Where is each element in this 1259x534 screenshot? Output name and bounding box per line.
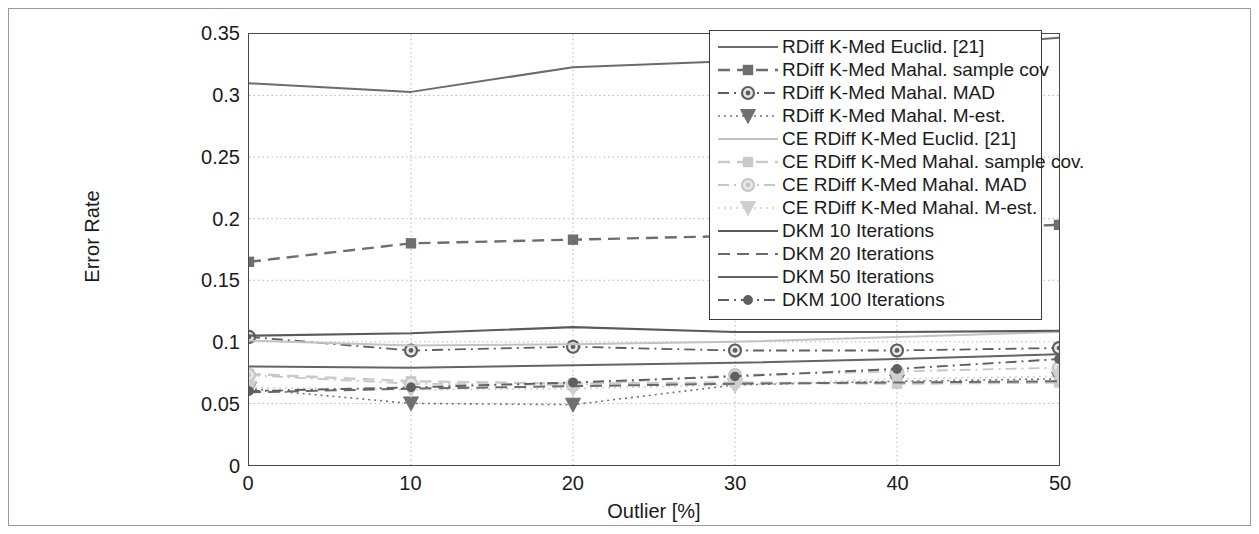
y-tick-label: 0.05	[150, 393, 240, 416]
legend-item[interactable]: RDiff K-Med Mahal. sample cov	[710, 58, 1041, 81]
y-tick-label: 0.1	[150, 331, 240, 354]
y-tick-label: 0.35	[150, 22, 240, 45]
chart-legend: RDiff K-Med Euclid. [21]RDiff K-Med Maha…	[709, 30, 1042, 320]
y-axis-tick-labels: 00.050.10.150.20.250.30.35	[150, 33, 240, 466]
x-tick-label: 20	[562, 472, 584, 495]
legend-line-sample	[716, 82, 780, 104]
legend-item[interactable]: DKM 100 Iterations	[710, 288, 1041, 311]
y-tick-label: 0.15	[150, 269, 240, 292]
x-axis-label: Outlier [%]	[248, 500, 1060, 523]
legend-label: DKM 50 Iterations	[780, 266, 934, 288]
y-tick-label: 0.3	[150, 83, 240, 106]
y-tick-label: 0.25	[150, 145, 240, 168]
x-tick-label: 40	[886, 472, 908, 495]
legend-item[interactable]: DKM 20 Iterations	[710, 242, 1041, 265]
figure-container: 00.050.10.150.20.250.30.35 01020304050 O…	[0, 0, 1259, 534]
legend-line-sample	[716, 197, 780, 219]
legend-item[interactable]: CE RDiff K-Med Mahal. sample cov.	[710, 150, 1041, 173]
legend-line-sample	[716, 128, 780, 150]
legend-label: DKM 10 Iterations	[780, 220, 934, 242]
x-tick-label: 50	[1049, 472, 1071, 495]
x-tick-label: 30	[724, 472, 746, 495]
legend-line-sample	[716, 36, 780, 58]
y-tick-label: 0.2	[150, 207, 240, 230]
x-tick-label: 0	[242, 472, 253, 495]
legend-line-sample	[716, 105, 780, 127]
legend-line-sample	[716, 59, 780, 81]
legend-label: DKM 100 Iterations	[780, 289, 945, 311]
x-tick-label: 10	[399, 472, 421, 495]
legend-line-sample	[716, 266, 780, 288]
legend-label: RDiff K-Med Mahal. MAD	[780, 82, 995, 104]
x-axis-tick-labels: 01020304050	[248, 472, 1060, 502]
legend-line-sample	[716, 289, 780, 311]
legend-line-sample	[716, 151, 780, 173]
legend-label: CE RDiff K-Med Mahal. M-est.	[780, 197, 1037, 219]
legend-label: CE RDiff K-Med Mahal. sample cov.	[780, 151, 1084, 173]
legend-line-sample	[716, 243, 780, 265]
legend-item[interactable]: RDiff K-Med Mahal. MAD	[710, 81, 1041, 104]
legend-item[interactable]: DKM 10 Iterations	[710, 219, 1041, 242]
legend-item[interactable]: RDiff K-Med Mahal. M-est.	[710, 104, 1041, 127]
legend-label: CE RDiff K-Med Euclid. [21]	[780, 128, 1016, 150]
y-tick-label: 0	[150, 455, 240, 478]
legend-item[interactable]: DKM 50 Iterations	[710, 265, 1041, 288]
legend-item[interactable]: CE RDiff K-Med Euclid. [21]	[710, 127, 1041, 150]
legend-item[interactable]: CE RDiff K-Med Mahal. M-est.	[710, 196, 1041, 219]
series-dkm-100-iterations	[249, 355, 1059, 395]
y-axis-label: Error Rate	[81, 137, 104, 337]
legend-label: CE RDiff K-Med Mahal. MAD	[780, 174, 1027, 196]
legend-label: RDiff K-Med Mahal. sample cov	[780, 59, 1049, 81]
legend-item[interactable]: RDiff K-Med Euclid. [21]	[710, 35, 1041, 58]
legend-label: RDiff K-Med Euclid. [21]	[780, 36, 984, 58]
legend-line-sample	[716, 220, 780, 242]
legend-line-sample	[716, 174, 780, 196]
legend-item[interactable]: CE RDiff K-Med Mahal. MAD	[710, 173, 1041, 196]
legend-label: DKM 20 Iterations	[780, 243, 934, 265]
legend-label: RDiff K-Med Mahal. M-est.	[780, 105, 1005, 127]
series-dkm-10-iterations	[249, 327, 1059, 336]
